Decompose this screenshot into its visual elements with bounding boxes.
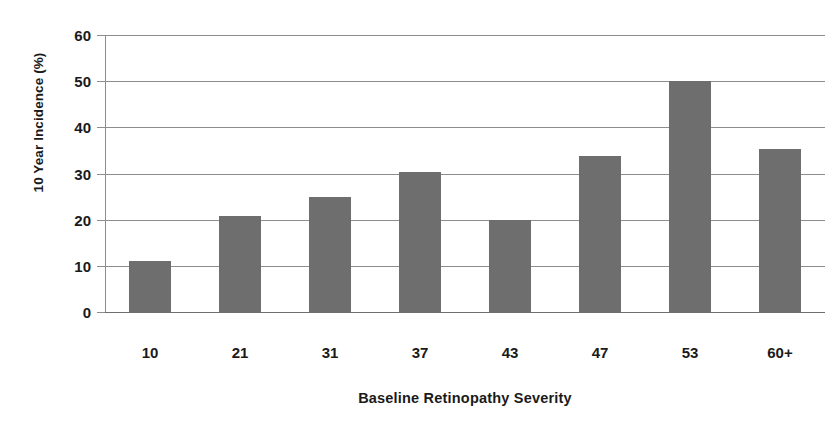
y-tick-label-20: 20: [53, 213, 91, 228]
bar-slot: [219, 35, 262, 312]
x-tick-label-21: 21: [195, 345, 285, 360]
bar-slot: [129, 35, 172, 312]
y-tick-mark-20: [97, 220, 105, 221]
bar-chart-figure: 10 Year Incidence (%) 6050403020100 1021…: [0, 0, 835, 426]
bar-31[interactable]: [309, 197, 352, 312]
bar-slot: [759, 35, 802, 312]
bar-37[interactable]: [399, 172, 442, 312]
y-axis-tick-labels: 6050403020100: [45, 0, 91, 426]
gridline-0: [105, 312, 825, 313]
plot-area: [105, 35, 825, 312]
chart-title: [0, 0, 835, 6]
bar-53[interactable]: [669, 81, 712, 312]
x-tick-label-60+: 60+: [735, 345, 825, 360]
bar-21[interactable]: [219, 216, 262, 312]
bar-10[interactable]: [129, 261, 172, 312]
x-tick-label-10: 10: [105, 345, 195, 360]
bar-47[interactable]: [579, 156, 622, 312]
y-tick-mark-0: [97, 312, 105, 313]
bar-slot: [489, 35, 532, 312]
y-tick-label-60: 60: [53, 28, 91, 43]
gridline-40: [105, 127, 825, 128]
y-tick-label-0: 0: [53, 305, 91, 320]
gridline-10: [105, 266, 825, 267]
gridline-30: [105, 174, 825, 175]
x-tick-label-43: 43: [465, 345, 555, 360]
bar-slot: [399, 35, 442, 312]
x-tick-label-31: 31: [285, 345, 375, 360]
y-tick-label-10: 10: [53, 259, 91, 274]
y-tick-mark-10: [97, 266, 105, 267]
y-axis-title: 10 Year Incidence (%): [31, 8, 46, 238]
x-tick-label-47: 47: [555, 345, 645, 360]
y-tick-mark-40: [97, 127, 105, 128]
y-tick-label-40: 40: [53, 120, 91, 135]
bar-60+[interactable]: [759, 149, 802, 312]
x-tick-label-53: 53: [645, 345, 735, 360]
x-axis-title: Baseline Retinopathy Severity: [105, 390, 825, 406]
gridline-50: [105, 81, 825, 82]
y-tick-label-30: 30: [53, 167, 91, 182]
y-tick-mark-30: [97, 174, 105, 175]
y-tick-label-50: 50: [53, 74, 91, 89]
y-tick-mark-50: [97, 81, 105, 82]
y-tick-mark-60: [97, 35, 105, 36]
bar-slot: [669, 35, 712, 312]
x-axis-tick-labels: 1021313743475360+: [105, 345, 825, 369]
gridline-20: [105, 220, 825, 221]
bar-43[interactable]: [489, 220, 532, 312]
bar-slot: [579, 35, 622, 312]
gridline-60: [105, 35, 825, 36]
x-tick-label-37: 37: [375, 345, 465, 360]
bar-slot: [309, 35, 352, 312]
